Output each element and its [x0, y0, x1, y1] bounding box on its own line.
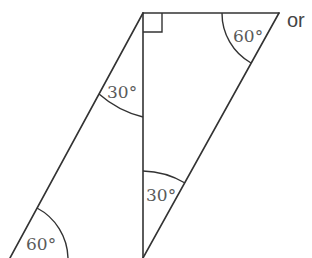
or-text: or: [287, 9, 305, 31]
right-slanted-edge: [143, 13, 279, 258]
angle-arc-lower-middle: [143, 171, 185, 183]
angle-label-lower-middle: 30°: [146, 185, 176, 205]
angle-label-bottom-left: 60°: [26, 234, 56, 254]
left-slanted-edge: [10, 13, 143, 258]
right-angle-marker: [143, 13, 162, 32]
parallelogram-diagram: 60° 30° 30° 60° or: [0, 0, 312, 258]
angle-label-upper-left: 30°: [107, 82, 137, 102]
angle-label-top-right: 60°: [233, 26, 263, 46]
